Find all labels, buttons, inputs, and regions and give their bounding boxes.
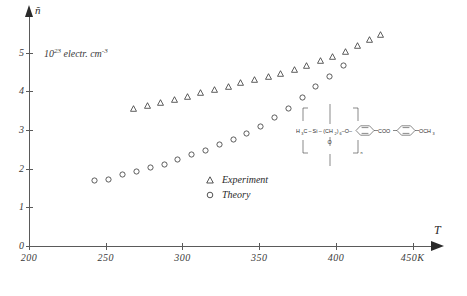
data-point-experiment — [157, 99, 164, 106]
y-axis-title: ñ — [35, 4, 41, 16]
chem-tail-group: OCH — [419, 128, 431, 134]
y-tick-label-wrap-1: 1 — [0, 201, 24, 211]
legend-item-theory: Theory — [205, 187, 268, 202]
data-point-theory — [105, 176, 112, 183]
x-tick-label-450: 450K — [393, 252, 433, 263]
data-point-experiment — [130, 105, 137, 112]
y-tick-5 — [26, 53, 33, 54]
y-tick-label-0: 0 — [4, 240, 24, 251]
data-point-experiment — [329, 53, 336, 60]
data-point-theory — [340, 62, 347, 69]
chemical-structure-annotation: H 3 C – Si – (CH 2 ) 6 –O– O n COO — [296, 104, 466, 170]
x-tick-450 — [413, 243, 414, 250]
data-point-experiment — [265, 73, 272, 80]
chem-tail-sub: 3 — [432, 132, 434, 136]
y-tick-label-wrap-5: 5 — [0, 47, 24, 57]
y-tick-3 — [26, 130, 33, 131]
y-tick-2 — [26, 169, 33, 170]
data-point-theory — [285, 105, 292, 112]
y-axis-arrow-icon — [25, 5, 33, 17]
data-point-theory — [216, 141, 223, 148]
y-tick-label-wrap-2: 2 — [0, 163, 24, 173]
data-point-experiment — [377, 31, 384, 38]
unit-rest: electr. cm — [61, 48, 102, 59]
data-point-experiment — [184, 93, 191, 100]
x-axis-line — [29, 246, 433, 247]
x-tick-label-300: 300 — [162, 252, 202, 263]
chem-si-oxygen: O — [327, 139, 331, 145]
data-point-theory — [299, 94, 306, 101]
data-point-theory — [147, 164, 154, 171]
legend-label-experiment: Experiment — [222, 174, 268, 185]
data-point-theory — [243, 130, 250, 137]
data-point-theory — [312, 83, 319, 90]
y-tick-label-wrap-3: 3 — [0, 124, 24, 134]
data-point-theory — [271, 114, 278, 121]
data-point-experiment — [225, 83, 232, 90]
x-tick-300 — [182, 243, 183, 250]
y-axis-unit-note: 1023 electr. cm-3 — [44, 47, 108, 59]
chem-bond-1: – — [308, 128, 311, 134]
data-point-theory — [188, 151, 195, 158]
data-point-theory — [91, 177, 98, 184]
chem-o-link: –O– — [342, 128, 352, 134]
y-tick-label-4: 4 — [4, 85, 24, 96]
data-point-theory — [257, 123, 264, 130]
data-point-experiment — [342, 48, 349, 55]
x-axis-title: T — [434, 223, 441, 238]
y-tick-1 — [26, 207, 33, 208]
data-point-theory — [230, 136, 237, 143]
data-point-experiment — [303, 62, 310, 69]
data-point-experiment — [277, 70, 284, 77]
chem-coo-group: COO — [378, 128, 390, 134]
unit-rest-exponent: -3 — [102, 47, 108, 55]
data-point-experiment — [354, 42, 361, 49]
y-tick-label-wrap-4: 4 — [0, 85, 24, 95]
y-tick-label-wrap-0: 0 — [0, 240, 24, 250]
chem-left-group: H — [296, 128, 300, 134]
figure-canvas: ñ T 1023 electr. cm-3 012345200250300350… — [0, 0, 467, 296]
data-point-theory — [174, 156, 181, 163]
chem-repeat-subscript: n — [361, 151, 363, 155]
x-axis-arrow-icon — [431, 241, 444, 251]
circle-marker-icon — [205, 190, 219, 200]
data-point-experiment — [237, 79, 244, 86]
x-tick-350 — [259, 243, 260, 250]
x-tick-label-350: 350 — [239, 252, 279, 263]
data-point-experiment — [144, 102, 151, 109]
chem-left-group-2: C — [304, 128, 308, 134]
data-point-theory — [133, 168, 140, 175]
data-point-experiment — [197, 89, 204, 96]
data-point-theory — [202, 147, 209, 154]
chem-bond-2: – — [319, 128, 322, 134]
legend-item-experiment: Experiment — [205, 172, 268, 187]
unit-exponent: 23 — [54, 47, 61, 55]
data-point-experiment — [366, 36, 373, 43]
y-tick-label-2: 2 — [4, 163, 24, 174]
data-point-experiment — [291, 66, 298, 73]
data-point-experiment — [317, 57, 324, 64]
y-tick-label-3: 3 — [4, 124, 24, 135]
x-tick-label-200: 200 — [9, 252, 49, 263]
data-point-theory — [119, 171, 126, 178]
data-point-experiment — [211, 86, 218, 93]
data-point-theory — [161, 161, 168, 168]
x-tick-200 — [29, 243, 30, 250]
legend: Experiment Theory — [205, 172, 268, 202]
data-point-theory — [326, 73, 333, 80]
data-point-experiment — [251, 76, 258, 83]
legend-label-theory: Theory — [222, 189, 250, 200]
x-tick-label-250: 250 — [86, 252, 126, 263]
y-tick-4 — [26, 91, 33, 92]
x-tick-250 — [106, 243, 107, 250]
y-tick-label-1: 1 — [4, 201, 24, 212]
chem-chain-open: (CH — [323, 128, 333, 134]
chem-silicon: Si — [313, 128, 318, 134]
y-tick-label-5: 5 — [4, 47, 24, 58]
x-tick-400 — [336, 243, 337, 250]
data-point-experiment — [171, 96, 178, 103]
x-tick-label-400: 400 — [316, 252, 356, 263]
unit-base: 10 — [44, 48, 54, 59]
triangle-marker-icon — [205, 175, 219, 185]
